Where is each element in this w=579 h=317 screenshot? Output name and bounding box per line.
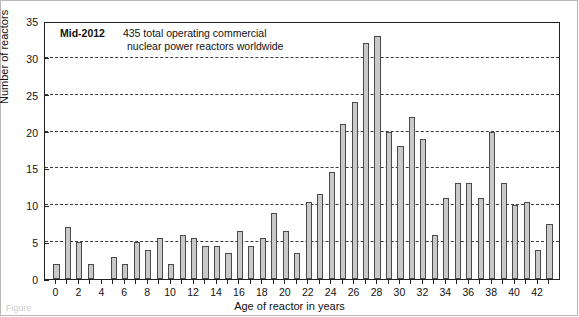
x-tickmark-39	[502, 280, 503, 284]
x-tick-label-14: 14	[204, 287, 228, 298]
bar-age-13	[202, 246, 208, 279]
bar-age-14	[214, 246, 220, 279]
x-tick-label-38: 38	[479, 287, 503, 298]
x-tick-label-18: 18	[250, 287, 274, 298]
x-tickmark-34	[445, 280, 446, 284]
x-tick-label-36: 36	[456, 287, 480, 298]
bar-age-1	[65, 227, 71, 279]
bar-age-25	[340, 124, 346, 279]
x-tickmark-40	[514, 280, 515, 284]
bar-age-0	[53, 264, 59, 279]
x-tickmark-28	[376, 280, 377, 284]
bar-age-8	[145, 250, 151, 279]
x-tickmark-18	[261, 280, 262, 284]
x-tick-label-30: 30	[387, 287, 411, 298]
y-tick-label-25: 25	[8, 91, 38, 102]
bar-age-22	[306, 202, 312, 279]
bar-age-41	[524, 202, 530, 279]
x-tickmark-4	[101, 280, 102, 284]
bar-age-3	[88, 264, 94, 279]
x-tick-label-40: 40	[502, 287, 526, 298]
x-tickmark-43	[548, 280, 549, 284]
x-tick-label-32: 32	[410, 287, 434, 298]
y-tick-label-0: 0	[8, 275, 38, 286]
x-tickmark-32	[422, 280, 423, 284]
x-tick-label-6: 6	[112, 287, 136, 298]
x-tick-label-20: 20	[273, 287, 297, 298]
bar-age-7	[134, 242, 140, 279]
bar-age-19	[271, 213, 277, 279]
bar-age-12	[191, 238, 197, 279]
bar-age-9	[157, 238, 163, 279]
x-tick-label-26: 26	[342, 287, 366, 298]
x-tickmark-12	[193, 280, 194, 284]
x-tickmark-17	[250, 280, 251, 284]
x-tick-label-10: 10	[158, 287, 182, 298]
x-tick-label-22: 22	[296, 287, 320, 298]
x-tickmark-3	[89, 280, 90, 284]
bar-age-5	[111, 257, 117, 279]
x-tickmark-20	[284, 280, 285, 284]
x-tickmark-9	[158, 280, 159, 284]
x-tickmark-30	[399, 280, 400, 284]
x-tickmark-29	[388, 280, 389, 284]
bar-age-6	[122, 264, 128, 279]
x-tickmark-10	[170, 280, 171, 284]
bar-age-10	[168, 264, 174, 279]
bar-age-20	[283, 231, 289, 279]
bar-age-38	[489, 132, 495, 279]
bar-age-27	[363, 43, 369, 279]
bar-age-21	[294, 253, 300, 279]
x-tick-label-24: 24	[319, 287, 343, 298]
y-tick-label-5: 5	[8, 238, 38, 249]
bar-age-11	[180, 235, 186, 279]
x-tickmark-21	[296, 280, 297, 284]
x-tickmark-35	[456, 280, 457, 284]
bar-age-31	[409, 117, 415, 279]
x-tickmark-0	[55, 280, 56, 284]
bar-age-17	[248, 246, 254, 279]
x-tickmark-26	[353, 280, 354, 284]
y-tick-label-35: 35	[8, 17, 38, 28]
x-tickmark-7	[135, 280, 136, 284]
x-tickmark-5	[112, 280, 113, 284]
x-tickmark-14	[216, 280, 217, 284]
y-tick-label-15: 15	[8, 164, 38, 175]
bar-age-30	[397, 146, 403, 279]
bar-age-18	[260, 238, 266, 279]
x-tick-label-34: 34	[433, 287, 457, 298]
figure-container: Mid-2012435 total operating commercial n…	[0, 0, 579, 317]
bar-age-32	[420, 139, 426, 279]
bar-age-42	[535, 250, 541, 279]
x-tick-label-4: 4	[89, 287, 113, 298]
bar-age-29	[386, 132, 392, 279]
plot-area	[44, 22, 560, 280]
caption-partial: Figure	[6, 303, 566, 315]
bar-age-28	[374, 36, 380, 279]
x-tickmark-2	[78, 280, 79, 284]
y-tick-label-30: 30	[8, 54, 38, 65]
y-tickmark-0	[44, 280, 49, 281]
x-tickmark-41	[525, 280, 526, 284]
y-tick-label-20: 20	[8, 128, 38, 139]
x-tick-label-0: 0	[43, 287, 67, 298]
x-tick-label-12: 12	[181, 287, 205, 298]
x-tickmark-27	[365, 280, 366, 284]
x-tickmark-37	[479, 280, 480, 284]
bar-age-39	[501, 183, 507, 279]
y-tick-label-10: 10	[8, 201, 38, 212]
x-tickmark-33	[433, 280, 434, 284]
bar-age-37	[478, 198, 484, 279]
x-tickmark-19	[273, 280, 274, 284]
bar-age-15	[225, 253, 231, 279]
x-tickmark-38	[491, 280, 492, 284]
x-tickmark-1	[66, 280, 67, 284]
x-tick-label-2: 2	[66, 287, 90, 298]
x-tickmark-25	[342, 280, 343, 284]
x-tickmark-13	[204, 280, 205, 284]
x-tickmark-11	[181, 280, 182, 284]
bar-age-34	[443, 198, 449, 279]
bar-age-33	[432, 235, 438, 279]
x-tick-label-28: 28	[365, 287, 389, 298]
bar-age-2	[76, 242, 82, 279]
